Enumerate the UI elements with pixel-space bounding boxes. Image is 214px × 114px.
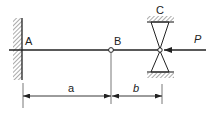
label-C: C xyxy=(156,4,164,16)
support-C-top-triangle xyxy=(151,22,169,49)
support-C-bottom-triangle xyxy=(151,51,169,72)
beam-diagram: A B C P a b xyxy=(0,0,214,114)
support-C xyxy=(147,16,174,78)
dim-label-b: b xyxy=(133,82,139,94)
pin-C xyxy=(158,48,162,52)
label-B: B xyxy=(114,35,121,47)
label-A: A xyxy=(25,35,33,47)
label-P: P xyxy=(194,33,202,45)
support-C-bottom-hatching xyxy=(147,73,174,78)
dim-label-a: a xyxy=(68,82,75,94)
fixed-wall-support xyxy=(13,18,22,80)
wall-hatching xyxy=(13,18,22,80)
hinge-B xyxy=(109,48,114,53)
support-C-top-hatching xyxy=(147,16,174,21)
